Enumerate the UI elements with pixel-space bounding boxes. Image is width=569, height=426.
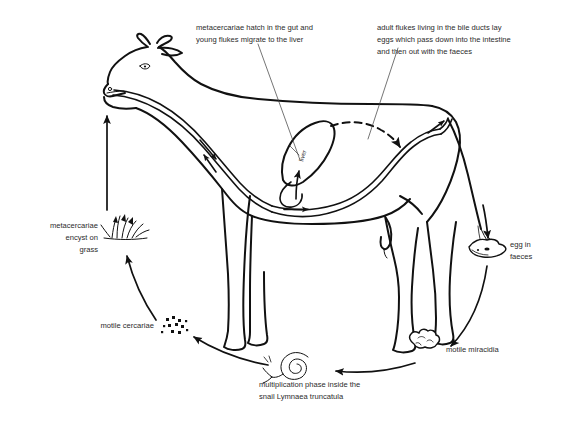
grass-tuft-icon	[101, 214, 149, 240]
leader-line-liver-pointer	[290, 146, 299, 155]
cow-rump	[427, 106, 460, 222]
snail-line-2: snail Lymnaea truncatula	[259, 392, 344, 401]
life-cycle-figure: metacercariae hatch in the gut and young…	[0, 0, 569, 426]
annotation-gut-hatch: metacercariae hatch in the gut and young…	[196, 23, 313, 44]
faeces-blob-icon	[469, 239, 506, 257]
gut-hatch-line-2: young flukes migrate to the liver	[196, 35, 304, 44]
arrow-faeces-to-miracidia	[451, 266, 487, 346]
cow-hind-leg-far	[427, 222, 456, 344]
cow-udder-teat	[384, 249, 387, 258]
egg-speck-b	[477, 249, 479, 251]
liver-label: liver	[297, 148, 308, 162]
arrow-snail-to-cercariae	[194, 337, 268, 365]
leader-line-bile-ducts	[368, 48, 398, 139]
snail-line-1: multiplication phase inside the	[259, 380, 360, 389]
annotation-bile-ducts: adult flukes living in the bile ducts la…	[377, 23, 511, 56]
annotation-liver: liver	[297, 148, 308, 162]
cow-horn-left	[137, 34, 150, 47]
encyst-line-1: metacercariae	[50, 221, 98, 230]
encyst-line-2: encyst on	[65, 233, 98, 242]
bile-ducts-line-1: adult flukes living in the bile ducts la…	[377, 23, 502, 32]
bile-to-intestine-dashed-route	[331, 122, 400, 147]
encyst-line-3: grass	[79, 245, 98, 254]
annotation-motile-miracidia: motile miracidia	[446, 345, 500, 354]
cow-pupil	[144, 65, 146, 67]
arrow-egg-drop	[483, 205, 488, 238]
cercariae-specks-icon	[161, 316, 188, 334]
arrow-cercariae-to-grass	[127, 256, 156, 320]
annotation-egg-in-faeces: egg in faeces	[510, 240, 533, 261]
cow-icon	[104, 34, 504, 353]
gut-hatch-line-1: metacercariae hatch in the gut and	[196, 23, 313, 32]
bile-ducts-line-2: eggs which pass down into the intestine	[377, 35, 511, 44]
snail-icon	[263, 353, 308, 383]
intestine-upper-wall	[272, 129, 440, 210]
egg-line-2: faeces	[510, 252, 533, 261]
cow-front-leg-far	[248, 216, 267, 345]
cow-nostril	[108, 87, 111, 90]
annotation-snail-multiplication: multiplication phase inside the snail Ly…	[259, 380, 360, 401]
egg-speck-a	[484, 248, 489, 251]
liver-icon	[282, 121, 334, 185]
gut-flow-arrow-neck	[200, 140, 216, 159]
annotation-encyst-on-grass: metacercariae encyst on grass	[50, 221, 98, 254]
oesophagus-upper	[114, 90, 272, 206]
arrow-miracidia-to-snail	[336, 363, 415, 372]
bile-ducts-line-3: and then out with the faeces	[377, 47, 472, 56]
annotation-motile-cercariae: motile cercariae	[100, 321, 154, 330]
miracidia-blob-icon	[410, 329, 440, 348]
egg-line-1: egg in	[510, 240, 531, 249]
cercariae-line-1: motile cercariae	[100, 321, 154, 330]
miracidia-line-1: motile miracidia	[446, 345, 500, 354]
life-cycle-diagram: metacercariae hatch in the gut and young…	[0, 0, 569, 426]
